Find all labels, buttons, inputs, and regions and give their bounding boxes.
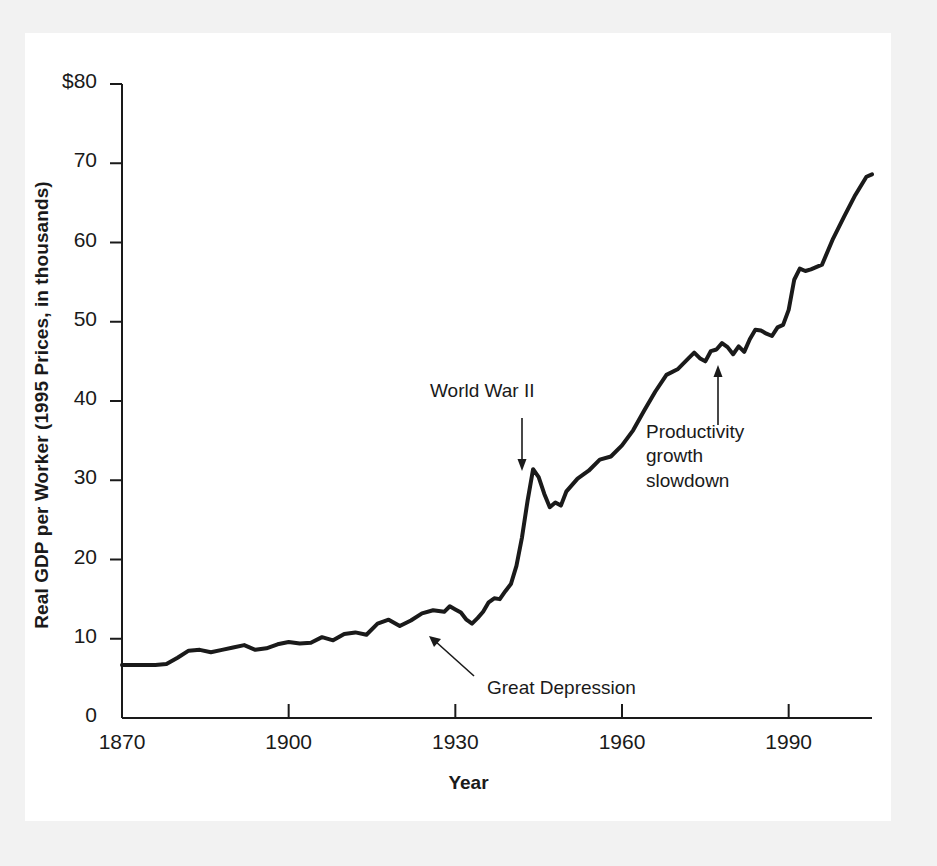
y-tick-label: 70 <box>7 148 97 172</box>
x-tick-label: 1960 <box>567 730 677 754</box>
y-tick-label: 20 <box>7 545 97 569</box>
y-tick-label: $80 <box>7 69 97 93</box>
chart-page: $80706050403020100 18701900193019601990 … <box>0 0 937 866</box>
annotation-productivity-growth-slowdown: Productivity growth slowdown <box>646 420 744 493</box>
y-tick-label: 60 <box>7 228 97 252</box>
y-tick-label: 10 <box>7 624 97 648</box>
x-tick-label: 1930 <box>400 730 510 754</box>
y-tick-label: 30 <box>7 465 97 489</box>
annotation-arrows <box>429 365 723 676</box>
y-tick-label: 0 <box>7 703 97 727</box>
y-tick-label: 50 <box>7 307 97 331</box>
data-series <box>122 174 872 665</box>
gdp-line <box>122 174 872 665</box>
x-axis-tick-marks <box>289 704 789 718</box>
x-tick-label: 1990 <box>734 730 844 754</box>
x-tick-label: 1870 <box>67 730 177 754</box>
world-war-ii-arrow <box>518 418 527 471</box>
productivity-growth-slowdown-arrow <box>714 365 723 425</box>
great-depression-arrow <box>429 636 474 676</box>
x-axis-title: Year <box>0 772 937 794</box>
annotation-great-depression: Great Depression <box>487 676 636 700</box>
y-axis-tick-marks <box>110 84 122 639</box>
x-tick-label: 1900 <box>234 730 344 754</box>
annotation-world-war-ii: World War II <box>430 379 535 403</box>
y-tick-label: 40 <box>7 386 97 410</box>
